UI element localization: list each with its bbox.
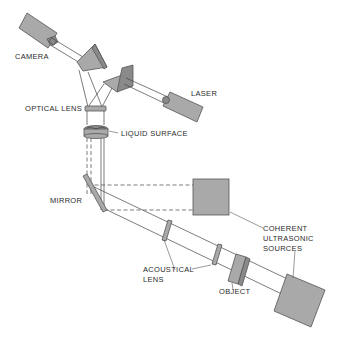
- optical-lens: [85, 106, 106, 111]
- label-acoustical-2: LENS: [143, 275, 164, 284]
- label-coherent-1: COHERENT: [263, 224, 308, 233]
- label-coherent-3: SOURCES: [263, 244, 302, 253]
- optical-rays: [79, 70, 112, 107]
- camera-prism: [77, 44, 107, 71]
- label-mirror: MIRROR: [50, 196, 82, 205]
- acoustical-lens-2: [212, 244, 222, 265]
- label-coherent-2: ULTRASONIC: [263, 234, 314, 243]
- camera-beam: [52, 40, 83, 63]
- label-laser: LASER: [191, 89, 217, 98]
- coherent-ultrasonic-sources-plate: [193, 179, 229, 215]
- lens-beams: [87, 111, 104, 125]
- mirror: [83, 174, 107, 212]
- acoustical-lens-1: [162, 220, 172, 241]
- camera: [19, 13, 58, 48]
- label-liquid-surface: LIQUID SURFACE: [121, 129, 188, 138]
- label-object: OBJECT: [219, 287, 251, 296]
- liquid-surface: [84, 126, 108, 139]
- coherent-ultrasonic-sources-box: [274, 274, 325, 327]
- object: [228, 254, 250, 286]
- laser-prism: [103, 65, 133, 92]
- diagram-canvas: CAMERA LASER OPTICAL LENS LIQUID SURFACE…: [0, 0, 337, 338]
- label-camera: CAMERA: [15, 52, 49, 61]
- label-acoustical-1: ACOUSTICAL: [143, 265, 194, 274]
- label-optical-lens: OPTICAL LENS: [25, 104, 82, 113]
